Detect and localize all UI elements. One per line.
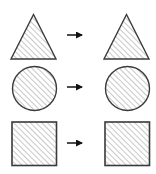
target-shape-square bbox=[104, 121, 151, 167]
square-icon bbox=[11, 121, 58, 167]
source-shape-circle bbox=[11, 65, 58, 112]
circle-icon bbox=[104, 65, 151, 112]
transform-arrow-3 bbox=[66, 138, 92, 148]
triangle-icon bbox=[103, 13, 151, 61]
target-shape-circle bbox=[104, 65, 151, 112]
diagram-row-triangle bbox=[0, 8, 156, 61]
square-icon bbox=[104, 121, 151, 167]
diagram-row-square bbox=[0, 117, 156, 170]
circle-icon bbox=[11, 65, 58, 112]
right-arrow-icon bbox=[66, 82, 92, 92]
triangle-icon bbox=[10, 13, 58, 61]
target-shape-triangle bbox=[103, 13, 151, 61]
transform-arrow-1 bbox=[66, 30, 92, 40]
right-arrow-icon bbox=[66, 30, 92, 40]
shape-transformation-diagram bbox=[0, 0, 156, 174]
source-shape-triangle bbox=[10, 13, 58, 61]
right-arrow-icon bbox=[66, 138, 92, 148]
diagram-row-circle bbox=[0, 61, 156, 114]
source-shape-square bbox=[11, 121, 58, 167]
transform-arrow-2 bbox=[66, 82, 92, 92]
